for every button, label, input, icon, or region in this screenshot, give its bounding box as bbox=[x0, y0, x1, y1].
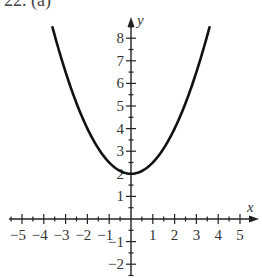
y-axis-arrow-icon bbox=[128, 17, 135, 27]
y-tick-label: 5 bbox=[117, 98, 125, 114]
y-tick-label: −1 bbox=[108, 234, 124, 250]
y-tick-label: 1 bbox=[117, 188, 125, 204]
x-axis-label: x bbox=[246, 199, 254, 215]
y-axis-label: y bbox=[135, 12, 144, 28]
y-tick-label: 6 bbox=[117, 75, 125, 91]
x-tick-label: 4 bbox=[214, 227, 222, 243]
x-tick-label: 1 bbox=[149, 227, 157, 243]
x-tick-label: 3 bbox=[193, 227, 201, 243]
y-tick-label: 4 bbox=[117, 121, 125, 137]
x-tick-label: −5 bbox=[10, 227, 26, 243]
problem-label: 22. (a) bbox=[4, 0, 51, 11]
x-tick-label: 2 bbox=[171, 227, 179, 243]
x-tick-label: −2 bbox=[75, 227, 91, 243]
y-tick-label: 3 bbox=[117, 143, 125, 159]
x-tick-label: −3 bbox=[54, 227, 70, 243]
y-tick-label: 8 bbox=[117, 30, 125, 46]
y-tick-label: 7 bbox=[117, 53, 125, 69]
x-tick-label: −4 bbox=[32, 227, 48, 243]
y-tick-label: −2 bbox=[108, 256, 124, 272]
parabola-graph: 22. (a) −5−4−3−2−112345−2−112345678 x y bbox=[0, 0, 262, 278]
x-tick-label: 5 bbox=[236, 227, 244, 243]
